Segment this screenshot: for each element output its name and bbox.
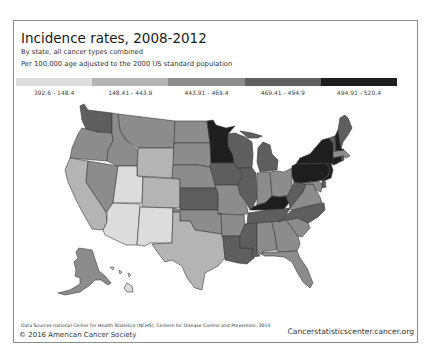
state-AK — [58, 248, 111, 295]
state-FL — [262, 251, 313, 288]
state-AZ — [103, 203, 140, 245]
website-link[interactable]: Cancerstatisticscenter.cancer.org — [287, 327, 414, 336]
state-KS — [180, 188, 218, 210]
copyright-note: © 2016 American Cancer Society — [19, 331, 136, 339]
state-WY — [137, 148, 174, 178]
state-ND — [174, 121, 210, 143]
state-NY — [296, 138, 338, 165]
state-NM — [137, 207, 173, 246]
data-source-note: Data Sources national Center for Health … — [21, 323, 270, 328]
state-HI — [110, 267, 133, 292]
state-OH — [270, 168, 292, 197]
state-SD — [173, 143, 211, 167]
state-ME — [338, 115, 352, 148]
state-CO — [142, 177, 180, 208]
us-choropleth-map — [0, 0, 428, 357]
state-DE — [322, 180, 326, 188]
state-AR — [218, 213, 245, 236]
state-OR — [70, 128, 113, 161]
